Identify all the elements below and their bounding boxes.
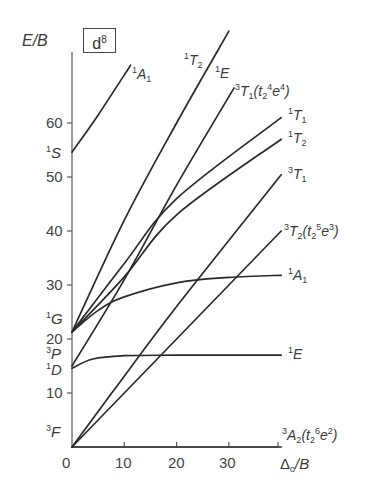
energy-curve (72, 139, 281, 332)
energy-curve (72, 65, 131, 152)
energy-curve (72, 355, 281, 368)
energy-curve (72, 88, 234, 366)
y-tick-60: 60 (46, 115, 63, 130)
state-label-1E: 1E (288, 346, 302, 361)
energy-curve (72, 275, 281, 332)
state-label-1T2-top: 1T2 (184, 52, 203, 70)
term-label-3F: 3F (46, 424, 60, 439)
x-axis-label: Δo/B (280, 456, 309, 474)
term-label-1D: 1D (46, 362, 62, 377)
y-axis-label: E/B (22, 33, 48, 49)
x-tick-20: 20 (168, 455, 185, 470)
state-label-1T1: 1T1 (288, 107, 307, 125)
state-label-3T2-t2-5e3: 3T2(t25e3) (284, 223, 339, 241)
y-tick-40: 40 (46, 223, 63, 238)
y-tick-30: 30 (46, 277, 63, 292)
state-label-1E-top: 1E (215, 65, 229, 80)
state-label-3T1-t2-4e4: 3T1(t24e4) (235, 83, 290, 101)
y-tick-50: 50 (46, 169, 63, 184)
term-label-1S: 1S (46, 145, 61, 160)
state-label-3T1: 3T1 (288, 166, 307, 184)
state-label-1A1: 1A1 (288, 267, 307, 285)
plot-area (0, 0, 379, 490)
x-tick-30: 30 (219, 455, 236, 470)
x-tick-10: 10 (115, 455, 132, 470)
state-label-1A1-top: 1A1 (132, 66, 151, 84)
x-tick-0: 0 (62, 455, 70, 470)
term-label-3P: 3P (46, 346, 61, 361)
y-tick-10: 10 (46, 385, 63, 400)
term-label-1G: 1G (46, 311, 63, 326)
d8-configuration-box: d8 (83, 28, 116, 53)
y-tick-20: 20 (46, 331, 63, 346)
state-label-3A2-t2-6e2: 3A2(t26e2) (282, 427, 337, 445)
state-label-1T2: 1T2 (288, 130, 307, 148)
